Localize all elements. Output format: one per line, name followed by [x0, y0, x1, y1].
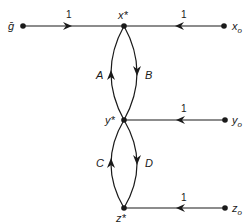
signal-flow-graph: ḡ x* xo y* yo z* zo 1 1 A B 1 C D 1: [0, 0, 251, 224]
label-y0: yo: [231, 114, 243, 129]
node-z0: [222, 205, 228, 211]
gain-z0-z: 1: [181, 192, 187, 203]
label-y-star: y*: [104, 114, 116, 126]
node-z-star: [121, 205, 127, 211]
edge-x-star-to-y-star: [124, 26, 137, 120]
gain-y0-y: 1: [181, 103, 187, 114]
gain-D: D: [145, 157, 153, 169]
label-z-star: z*: [115, 212, 127, 224]
label-z0: zo: [231, 202, 243, 217]
gain-B: B: [145, 69, 152, 81]
gain-g-x: 1: [66, 9, 72, 20]
edge-y-star-to-z-star: [124, 120, 137, 208]
gain-A: A: [95, 69, 103, 81]
node-y0: [222, 117, 228, 123]
gain-x0-x: 1: [181, 9, 187, 20]
label-g: ḡ: [8, 20, 15, 32]
node-y-star: [121, 117, 127, 123]
node-x-star: [121, 23, 127, 29]
label-x-star: x*: [117, 9, 129, 21]
node-g: [20, 23, 26, 29]
edge-y-star-to-x-star: [111, 26, 124, 120]
gain-C: C: [96, 157, 104, 169]
label-x0: xo: [231, 20, 243, 35]
node-x0: [221, 23, 227, 29]
